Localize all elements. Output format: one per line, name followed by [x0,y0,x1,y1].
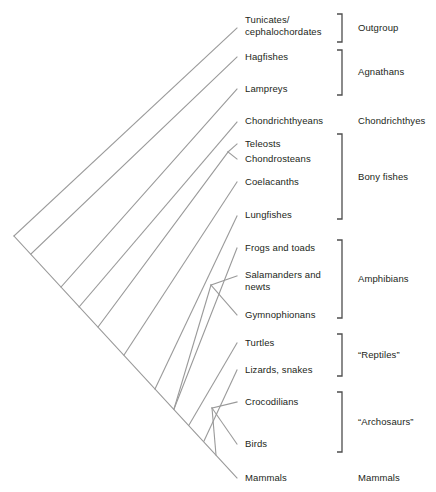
group-label-mammals: Mammals [358,472,400,484]
group-label-reptiles: “Reptiles” [358,349,400,361]
group-label-bony-fishes: Bony fishes [358,171,408,183]
bracket-archosaurs [337,392,342,452]
bracket-outgroup [337,14,342,42]
bracket-reptiles [337,334,342,376]
group-label-chondrichthyes: Chondrichthyes [358,115,425,127]
bracket-amphibians [337,240,342,318]
group-label-archosaurs: “Archosaurs” [358,416,414,428]
group-label-outgroup: Outgroup [358,22,398,34]
cladogram-figure: Tunicates/ cephalochordates Hagfishes La… [0,0,436,492]
group-label-amphibians: Amphibians [358,273,409,285]
group-label-agnathans: Agnathans [358,66,404,78]
bracket-agnathans [337,50,342,95]
bracket-bony-fishes [337,134,342,219]
